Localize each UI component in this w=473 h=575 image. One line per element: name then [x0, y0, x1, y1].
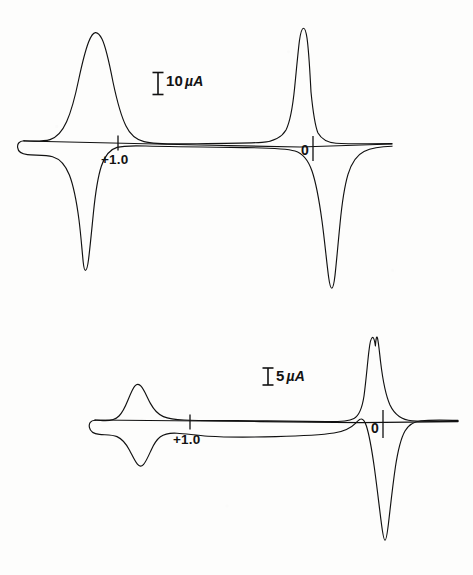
figure-root: 10µA +1.0 0 5µA +1.0 0 [0, 0, 473, 575]
scale-bar-value-top: 10 [166, 72, 183, 89]
scale-bar-unit-top: µA [183, 73, 204, 89]
cv-panel-bottom [89, 337, 458, 540]
cv-trace-bottom-reverse [89, 419, 458, 540]
axis-tick-label-plus-one-bottom: +1.0 [173, 432, 200, 447]
scale-bar-label-bottom: 5µA [276, 367, 305, 384]
scale-bar-top [153, 73, 164, 95]
axis-tick-label-zero-bottom: 0 [371, 420, 379, 436]
scale-bar-value-bottom: 5 [276, 367, 285, 384]
axis-tick-label-plus-one-top: +1.0 [101, 152, 128, 167]
cv-trace-top-forward [24, 28, 392, 144]
cv-panel-top [18, 28, 392, 288]
cv-trace-top-reverse [18, 141, 392, 288]
scale-bar-label-top: 10µA [166, 72, 204, 89]
scale-bar-bottom [263, 368, 274, 385]
scale-bar-unit-bottom: µA [285, 368, 306, 384]
axis-tick-label-zero-top: 0 [301, 142, 309, 158]
cyclic-voltammogram-figure [0, 0, 473, 575]
